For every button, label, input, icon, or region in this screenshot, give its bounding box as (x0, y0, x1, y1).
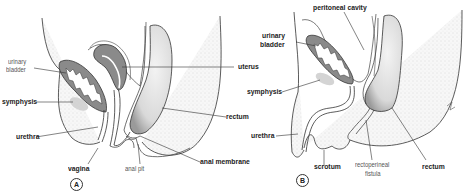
label-b-rectoperineal: rectoperineal (355, 161, 389, 168)
label-b-scrotum: scrotum (314, 163, 341, 171)
panel-a (34, 16, 234, 164)
anatomy-diagram: urinary bladder symphysis urethra vagina… (0, 0, 468, 193)
label-a-vagina: vagina (68, 165, 90, 173)
label-b-urethra: urethra (251, 132, 274, 140)
label-b-symphysis: symphysis (247, 88, 282, 96)
label-a-bladder: bladder (6, 66, 26, 73)
label-a-anal-pit: anal pit (125, 165, 144, 172)
label-a-symphysis: symphysis (2, 98, 37, 106)
panel-b (276, 10, 462, 166)
panel-b-badge: B (296, 174, 309, 187)
label-b-bladder: bladder (260, 41, 285, 49)
label-b-peritoneal-cavity: peritoneal cavity (313, 4, 367, 12)
label-b-rectum: rectum (422, 163, 445, 171)
panel-a-badge: A (70, 178, 83, 191)
label-b-fistula: fistula (365, 170, 381, 177)
label-a-anal-membrane: anal membrane (200, 158, 250, 166)
label-a-uterus: uterus (238, 63, 259, 71)
label-b-urinary: urinary (262, 32, 285, 40)
label-a-rectum: rectum (226, 113, 249, 121)
label-a-urethra: urethra (16, 133, 39, 141)
label-a-urinary: urinary (8, 58, 26, 65)
